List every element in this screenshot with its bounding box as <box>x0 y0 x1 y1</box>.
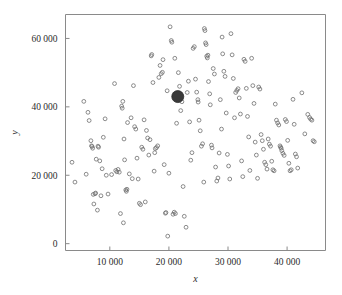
scatter-plot-figure: 10 00020 00030 00040 000020 00040 00060 … <box>0 0 342 295</box>
x-tick-label: 40 000 <box>274 257 300 267</box>
y-tick-label: 0 <box>53 239 58 249</box>
plot-frame <box>66 15 326 251</box>
data-points <box>70 25 316 238</box>
axis-tick-labels: 10 00020 00030 00040 000020 00040 00060 … <box>31 34 300 267</box>
y-tick-label: 40 000 <box>31 102 57 112</box>
plot-canvas: 10 00020 00030 00040 000020 00040 00060 … <box>0 0 342 295</box>
x-tick-label: 10 000 <box>97 257 123 267</box>
x-tick-label: 30 000 <box>215 257 241 267</box>
y-tick-label: 20 000 <box>31 171 57 181</box>
y-axis-title: y <box>9 130 20 136</box>
x-tick-label: 20 000 <box>156 257 182 267</box>
y-tick-label: 60 000 <box>31 34 57 44</box>
x-axis-title: x <box>192 273 198 284</box>
